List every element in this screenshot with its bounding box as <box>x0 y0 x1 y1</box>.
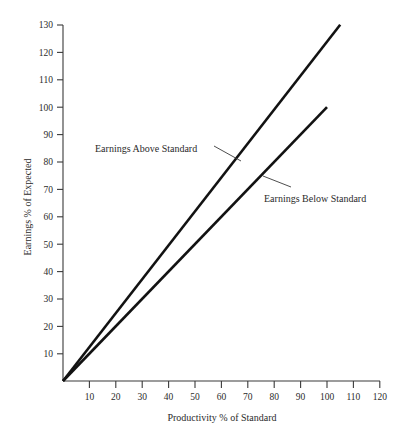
x-tick-label-10: 10 <box>85 392 95 402</box>
y-tick-labels: 130 120 110 100 90 80 70 60 50 40 30 20 … <box>39 20 54 359</box>
annotation-earnings-below-standard: Earnings Below Standard <box>263 176 366 204</box>
x-tick-label-60: 60 <box>217 392 227 402</box>
x-tick-label-50: 50 <box>190 392 200 402</box>
annotation-earnings-above-standard: Earnings Above Standard <box>95 143 241 161</box>
y-tick-label-130: 130 <box>39 20 54 30</box>
y-tick-label-50: 50 <box>44 240 54 250</box>
x-tick-marks <box>89 381 379 388</box>
x-axis-title: Productivity % of Standard <box>167 412 276 423</box>
y-tick-marks <box>57 25 63 354</box>
y-tick-label-80: 80 <box>44 157 54 167</box>
x-tick-label-120: 120 <box>373 392 388 402</box>
x-tick-label-20: 20 <box>111 392 121 402</box>
leader-line-above <box>214 146 241 161</box>
x-tick-label-100: 100 <box>320 392 335 402</box>
series-label-earnings-above-standard: Earnings Above Standard <box>95 143 197 154</box>
y-tick-label-110: 110 <box>39 75 53 85</box>
leader-line-below <box>263 176 291 187</box>
series-label-earnings-below-standard: Earnings Below Standard <box>264 193 366 204</box>
chart-container: 130 120 110 100 90 80 70 60 50 40 30 20 … <box>0 0 406 439</box>
x-tick-label-30: 30 <box>137 392 147 402</box>
x-tick-labels: 10 20 30 40 50 60 70 80 90 100 110 120 <box>85 392 388 402</box>
y-tick-label-60: 60 <box>44 212 54 222</box>
x-tick-label-40: 40 <box>164 392 174 402</box>
y-tick-label-40: 40 <box>44 267 54 277</box>
x-tick-label-80: 80 <box>269 392 279 402</box>
y-tick-label-30: 30 <box>44 294 54 304</box>
y-tick-label-20: 20 <box>44 322 54 332</box>
line-chart: 130 120 110 100 90 80 70 60 50 40 30 20 … <box>0 0 406 439</box>
x-tick-label-110: 110 <box>346 392 360 402</box>
y-axis-title: Earnings % of Expected <box>22 159 33 256</box>
y-tick-label-120: 120 <box>39 48 54 58</box>
y-tick-label-70: 70 <box>44 185 54 195</box>
y-tick-label-10: 10 <box>44 349 54 359</box>
y-tick-label-90: 90 <box>44 130 54 140</box>
x-tick-label-90: 90 <box>296 392 306 402</box>
x-tick-label-70: 70 <box>243 392 253 402</box>
y-tick-label-100: 100 <box>39 103 54 113</box>
